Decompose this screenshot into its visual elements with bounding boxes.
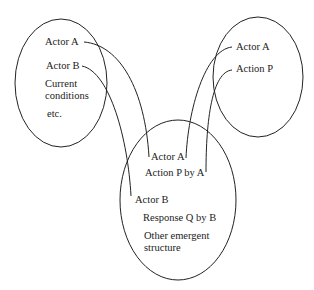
left-etc-label: etc. [47,108,62,120]
bottom-actor-a-label: Actor A [151,151,185,163]
connector-right-actor-a [186,47,232,158]
left-actor-a-label: Actor A [45,36,79,48]
left-current-label: Current [45,78,77,90]
bottom-action-p-label: Action P by A [145,167,204,179]
left-conditions-label: conditions [45,90,89,102]
right-actor-a-label: Actor A [236,41,270,53]
connector-right-action-p [206,70,232,172]
bottom-structure-label: structure [144,242,181,254]
right-action-p-label: Action P [236,63,273,75]
bottom-actor-b-label: Actor B [135,194,169,206]
right-circle [213,17,303,137]
bottom-response-q-label: Response Q by B [143,212,216,224]
bottom-other-emergent-label: Other emergent [144,230,209,242]
left-actor-b-label: Actor B [46,60,80,72]
